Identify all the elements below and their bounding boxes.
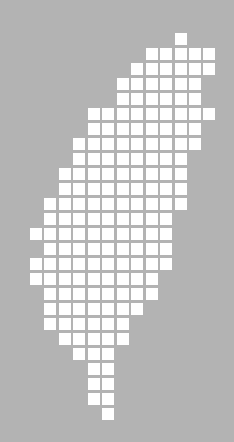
map-tile: [175, 198, 187, 210]
map-tile: [102, 108, 114, 120]
map-tile: [59, 243, 71, 255]
map-tile: [88, 378, 100, 390]
map-tile: [30, 228, 42, 240]
map-tile: [160, 48, 172, 60]
map-tile: [175, 63, 187, 75]
map-tile: [59, 288, 71, 300]
map-tile: [131, 198, 143, 210]
map-tile: [160, 228, 172, 240]
map-tile: [73, 288, 85, 300]
map-tile: [59, 198, 71, 210]
map-tile: [73, 183, 85, 195]
map-tile: [189, 123, 201, 135]
map-tile: [117, 333, 129, 345]
map-tile: [146, 198, 158, 210]
map-tile: [131, 63, 143, 75]
map-tile: [117, 303, 129, 315]
map-tile: [160, 168, 172, 180]
map-tile: [131, 108, 143, 120]
map-tile: [88, 168, 100, 180]
map-tile: [189, 138, 201, 150]
map-tile: [88, 288, 100, 300]
map-tile: [146, 258, 158, 270]
map-tile: [131, 273, 143, 285]
map-tile: [88, 183, 100, 195]
map-tile: [44, 198, 56, 210]
map-tile: [131, 258, 143, 270]
map-tile: [102, 393, 114, 405]
map-tile: [175, 48, 187, 60]
map-tile: [146, 123, 158, 135]
map-tile: [102, 273, 114, 285]
map-tile: [102, 183, 114, 195]
map-tile: [88, 213, 100, 225]
map-tile: [44, 303, 56, 315]
map-tile: [175, 78, 187, 90]
map-tile: [175, 183, 187, 195]
map-tile: [146, 273, 158, 285]
map-tile: [102, 228, 114, 240]
map-tile: [102, 213, 114, 225]
map-tile: [160, 183, 172, 195]
map-tile: [73, 213, 85, 225]
map-tile: [175, 168, 187, 180]
map-tile: [146, 78, 158, 90]
map-tile: [59, 303, 71, 315]
map-tile: [44, 228, 56, 240]
map-tile: [117, 243, 129, 255]
map-tile: [102, 318, 114, 330]
map-tile: [146, 153, 158, 165]
map-tile: [117, 288, 129, 300]
map-tile: [59, 273, 71, 285]
map-tile: [73, 348, 85, 360]
map-tile: [160, 123, 172, 135]
map-tile: [102, 333, 114, 345]
map-tile: [189, 78, 201, 90]
map-tile: [88, 273, 100, 285]
map-tile: [146, 63, 158, 75]
map-tile: [88, 198, 100, 210]
map-tile: [175, 138, 187, 150]
map-tile: [102, 138, 114, 150]
map-tile: [160, 78, 172, 90]
map-tile: [160, 108, 172, 120]
map-tile: [203, 48, 215, 60]
map-tile: [88, 138, 100, 150]
map-tile: [59, 213, 71, 225]
map-tile: [44, 213, 56, 225]
map-tile: [88, 153, 100, 165]
map-tile: [59, 333, 71, 345]
map-tile: [102, 198, 114, 210]
map-tile: [117, 273, 129, 285]
map-tile: [146, 228, 158, 240]
map-tile: [73, 258, 85, 270]
map-tile: [102, 258, 114, 270]
map-tile: [102, 348, 114, 360]
map-tile: [102, 123, 114, 135]
map-tile: [160, 93, 172, 105]
map-tile: [131, 93, 143, 105]
map-tile: [117, 168, 129, 180]
map-tile: [30, 273, 42, 285]
map-tile: [59, 228, 71, 240]
map-tile: [102, 363, 114, 375]
tile-grid-map: [0, 0, 234, 442]
map-tile: [117, 318, 129, 330]
map-tile: [203, 108, 215, 120]
map-tile: [146, 183, 158, 195]
map-tile: [117, 108, 129, 120]
map-tile: [189, 93, 201, 105]
map-tile: [102, 243, 114, 255]
map-tile: [30, 258, 42, 270]
map-tile: [88, 318, 100, 330]
map-tile: [175, 123, 187, 135]
map-tile: [88, 243, 100, 255]
map-tile: [131, 213, 143, 225]
map-tile: [175, 33, 187, 45]
map-tile: [88, 303, 100, 315]
map-tile: [160, 213, 172, 225]
map-tile: [102, 153, 114, 165]
map-tile: [160, 138, 172, 150]
map-tile: [88, 258, 100, 270]
map-tile: [175, 108, 187, 120]
